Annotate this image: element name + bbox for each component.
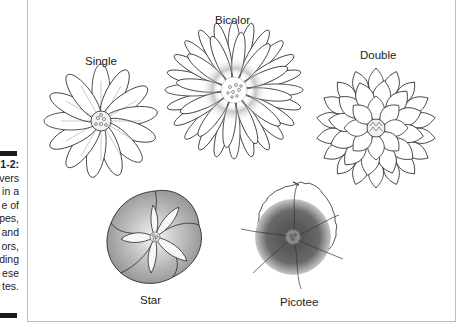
single-flower: [44, 64, 159, 179]
label-double: Double: [360, 49, 396, 61]
label-picotee: Picotee: [280, 296, 318, 308]
label-bicolor: Bicolor: [215, 14, 250, 26]
label-single: Single: [85, 55, 117, 67]
label-star: Star: [140, 294, 161, 306]
star-flower: [107, 190, 202, 283]
picotee-flower: [241, 182, 343, 289]
double-flower: [316, 68, 437, 188]
bicolor-flower: [165, 21, 303, 159]
